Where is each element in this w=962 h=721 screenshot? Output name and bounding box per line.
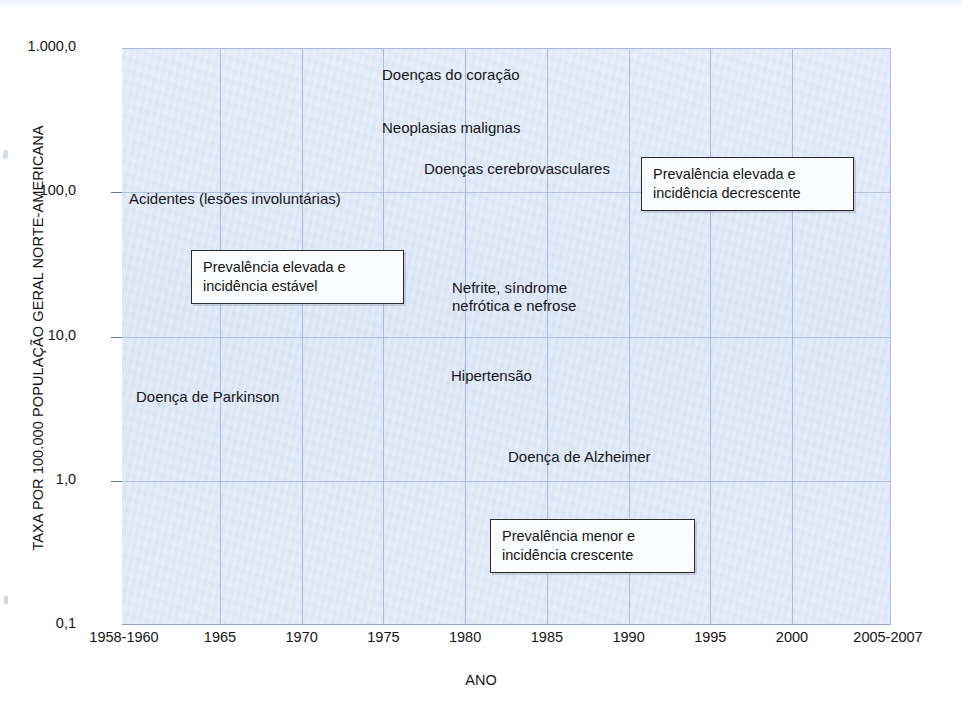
series-label-alzheimer: Doença de Alzheimer bbox=[508, 448, 651, 466]
x-axis-tick-label: 1965 bbox=[204, 629, 236, 645]
annotation-high-prevalence-stable: Prevalência elevada e incidência estável bbox=[191, 250, 404, 304]
horizontal-gridline bbox=[122, 337, 890, 338]
x-axis-tick-label: 1995 bbox=[694, 629, 726, 645]
series-label-parkinson: Doença de Parkinson bbox=[136, 388, 279, 406]
plot-top-rule bbox=[122, 48, 890, 49]
y-axis-tick-label: 0,1 bbox=[56, 615, 76, 631]
annotation-line-2: incidência decrescente bbox=[653, 184, 842, 203]
series-line bbox=[122, 213, 890, 251]
y-axis-tick-mark bbox=[111, 337, 122, 338]
annotation-low-prevalence-increasing: Prevalência menor e incidência crescente bbox=[490, 519, 695, 573]
series-label-nephritis: Nefrite, síndrome nefrótica e nefrose bbox=[452, 279, 576, 316]
x-axis-tick-label: 1975 bbox=[367, 629, 399, 645]
annotation-high-prevalence-decreasing: Prevalência elevada e incidência decresc… bbox=[641, 157, 854, 211]
x-axis-tick-label: 1980 bbox=[449, 629, 481, 645]
y-axis-tick-label: 1.000,0 bbox=[28, 38, 76, 54]
x-axis-tick-label: 1985 bbox=[531, 629, 563, 645]
series-label-heart: Doenças do coração bbox=[382, 66, 520, 84]
x-axis-tick-label: 1958-1960 bbox=[89, 629, 158, 645]
annotation-line-1: Prevalência menor e bbox=[502, 527, 683, 546]
series-label-nephritis-line2: nefrótica e nefrose bbox=[452, 297, 576, 315]
y-axis-tick-mark bbox=[111, 192, 122, 193]
plot-bottom-rule bbox=[122, 624, 890, 625]
series-label-hypertension: Hipertensão bbox=[451, 367, 532, 385]
x-axis-tick-label: 2000 bbox=[776, 629, 808, 645]
y-axis-tick-label: 1,0 bbox=[56, 471, 76, 487]
annotation-line-2: incidência crescente bbox=[502, 546, 683, 565]
annotation-line-1: Prevalência elevada e bbox=[203, 258, 392, 277]
series-line bbox=[465, 284, 890, 556]
annotation-line-2: incidência estável bbox=[203, 277, 392, 296]
series-label-neoplasms: Neoplasias malignas bbox=[382, 119, 520, 137]
x-axis-tick-label: 1990 bbox=[612, 629, 644, 645]
y-axis-tick-label: 10,0 bbox=[48, 327, 76, 343]
vertical-gridline bbox=[890, 48, 891, 625]
annotation-line-1: Prevalência elevada e bbox=[653, 165, 842, 184]
horizontal-gridline bbox=[122, 481, 890, 482]
x-axis-tick-label: 2005-2007 bbox=[853, 629, 922, 645]
series-label-cerebrovascular: Doenças cerebrovasculares bbox=[424, 160, 610, 178]
y-axis-tick-label: 100,0 bbox=[40, 182, 76, 198]
series-label-accidents: Acidentes (lesões involuntárias) bbox=[129, 190, 341, 208]
x-axis-tick-label: 1970 bbox=[286, 629, 318, 645]
y-axis-tick-mark bbox=[111, 481, 122, 482]
series-line bbox=[122, 149, 890, 155]
mortality-rate-line-chart: TAXA POR 100.000 POPULAÇÃO GERAL NORTE-A… bbox=[0, 0, 962, 721]
series-label-nephritis-line1: Nefrite, síndrome bbox=[452, 279, 576, 297]
x-axis-title: ANO bbox=[0, 672, 962, 688]
